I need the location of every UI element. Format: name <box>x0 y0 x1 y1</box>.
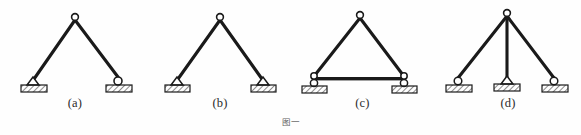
left-support-pin-triangle <box>171 77 183 85</box>
member-left <box>34 20 75 79</box>
apex-hinge-joint <box>72 14 79 21</box>
member-left <box>315 18 360 75</box>
figure-panel-d: (d) <box>435 0 581 135</box>
panel-d-drawing <box>435 0 581 100</box>
left-support-roller-circle <box>454 77 462 85</box>
figure-caption: 图一 <box>0 117 581 127</box>
right-support-roller-circle <box>114 77 122 85</box>
panel-a-label: (a) <box>0 96 150 111</box>
left-support-ground <box>21 85 47 92</box>
left-support-pin-triangle <box>27 77 39 85</box>
right-support-roller-circle <box>550 77 558 85</box>
left-support-ground <box>302 86 327 93</box>
panel-a-drawing <box>0 0 150 100</box>
panel-c-drawing <box>290 0 435 100</box>
right-support-ground <box>542 85 568 92</box>
left-hinge-joint <box>311 73 317 79</box>
right-support-ground <box>392 86 417 93</box>
figure-panel-a: (a) <box>0 0 150 135</box>
member-left <box>458 16 507 78</box>
member-right <box>75 20 118 77</box>
member-right <box>220 20 262 79</box>
member-right <box>507 16 554 78</box>
left-support-ground <box>165 85 190 92</box>
right-support-pin-triangle <box>257 77 269 85</box>
left-support-ground <box>446 85 472 92</box>
figure-panel-c: (c) <box>290 0 435 135</box>
structural-diagram-sheet: (a) (b) <box>0 0 581 135</box>
right-hinge-joint <box>401 73 407 79</box>
panel-c-label: (c) <box>290 96 435 111</box>
apex-hinge-joint <box>504 10 511 17</box>
middle-support-ground <box>494 84 520 91</box>
apex-hinge-joint <box>217 14 224 21</box>
member-left <box>178 20 220 79</box>
panel-b-label: (b) <box>150 96 290 111</box>
right-support-ground <box>251 85 276 92</box>
right-support-ground <box>106 85 132 92</box>
panel-b-drawing <box>150 0 290 100</box>
apex-hinge-joint <box>357 12 364 19</box>
tie-rod <box>314 77 404 80</box>
figure-panel-b: (b) <box>150 0 290 135</box>
panel-d-label: (d) <box>435 96 581 111</box>
member-right <box>360 18 403 75</box>
middle-support-pin-triangle <box>501 76 513 84</box>
